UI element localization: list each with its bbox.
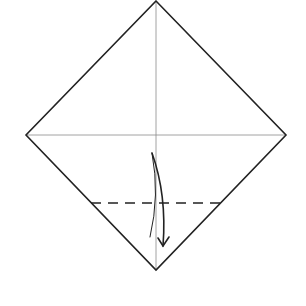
- fold-arrow-icon: [150, 153, 169, 246]
- origami-diagram: [0, 0, 306, 306]
